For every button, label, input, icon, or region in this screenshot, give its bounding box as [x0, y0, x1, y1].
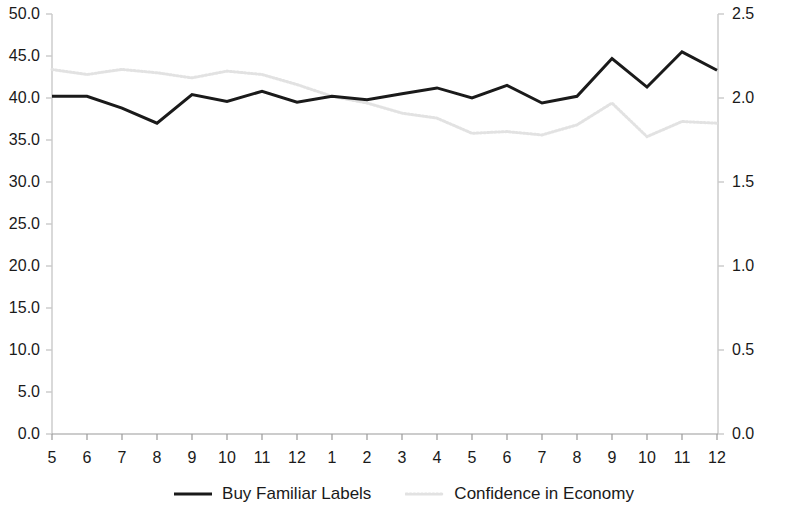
- series-line-buy-familiar-labels: [52, 52, 717, 123]
- x-axis-tick-label: 1: [315, 450, 349, 466]
- legend-label-confidence-in-economy: Confidence in Economy: [454, 485, 634, 502]
- x-axis-tick-label: 10: [210, 450, 244, 466]
- series-lines: [52, 14, 718, 434]
- x-axis-tick-label: 11: [245, 450, 279, 466]
- x-axis-tick-label: 9: [175, 450, 209, 466]
- x-axis-tick-label: 8: [140, 450, 174, 466]
- legend-item-confidence-in-economy: Confidence in Economy: [405, 485, 634, 502]
- y-axis-left-tick-label: 25.0: [0, 216, 40, 232]
- chart-legend: Buy Familiar Labels Confidence in Econom…: [0, 478, 807, 509]
- y-axis-right-tick-label: 1.0: [732, 258, 778, 274]
- x-axis-tick-label: 3: [385, 450, 419, 466]
- y-axis-left-tick-label: 45.0: [0, 48, 40, 64]
- x-axis-tick-label: 2: [350, 450, 384, 466]
- y-axis-left-tick-label: 5.0: [0, 384, 40, 400]
- y-axis-left-tick-label: 35.0: [0, 132, 40, 148]
- y-axis-right-tick-label: 2.5: [732, 6, 778, 22]
- y-axis-right-tick-label: 0.5: [732, 342, 778, 358]
- y-axis-left-tick-label: 40.0: [0, 90, 40, 106]
- series-line-confidence-in-economy: [52, 69, 717, 136]
- plot-area: [52, 14, 718, 434]
- y-axis-right-tick-label: 1.5: [732, 174, 778, 190]
- y-axis-right-tick-label: 0.0: [732, 426, 778, 442]
- x-axis-tick-label: 5: [455, 450, 489, 466]
- x-axis-tick-label: 7: [525, 450, 559, 466]
- y-axis-left-tick-label: 20.0: [0, 258, 40, 274]
- x-axis-tick-label: 6: [490, 450, 524, 466]
- y-axis-left-tick-label: 30.0: [0, 174, 40, 190]
- solid-line-swatch-icon: [173, 487, 213, 501]
- x-axis-tick-label: 11: [665, 450, 699, 466]
- x-axis-tick-label: 6: [70, 450, 104, 466]
- legend-label-buy-familiar-labels: Buy Familiar Labels: [222, 485, 371, 502]
- legend-item-buy-familiar-labels: Buy Familiar Labels: [173, 485, 371, 502]
- dotted-line-swatch-icon: [405, 487, 445, 501]
- x-axis-tick-label: 7: [105, 450, 139, 466]
- x-axis-tick-label: 10: [630, 450, 664, 466]
- y-axis-left-tick-label: 15.0: [0, 300, 40, 316]
- x-axis-tick-label: 9: [595, 450, 629, 466]
- x-axis-tick-label: 5: [35, 450, 69, 466]
- y-axis-left-tick-label: 0.0: [0, 426, 40, 442]
- y-axis-left-tick-label: 50.0: [0, 6, 40, 22]
- x-axis-tick-label: 12: [280, 450, 314, 466]
- y-axis-right-tick-label: 2.0: [732, 90, 778, 106]
- chart-container: Buy Familiar Labels Confidence in Econom…: [0, 0, 807, 509]
- x-axis-tick-label: 12: [700, 450, 734, 466]
- y-axis-left-tick-label: 10.0: [0, 342, 40, 358]
- x-axis-tick-label: 4: [420, 450, 454, 466]
- x-axis-tick-label: 8: [560, 450, 594, 466]
